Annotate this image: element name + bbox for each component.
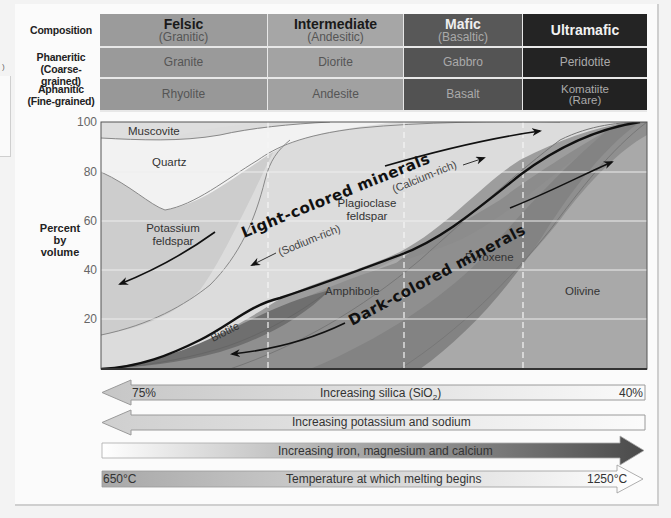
silica-label-text: Increasing silica (SiO (320, 386, 433, 400)
label-quartz: Quartz (152, 156, 187, 168)
silica-right-value: 40% (619, 386, 643, 400)
label-amphibole: Amphibole (325, 285, 379, 297)
iron-magnesium-calcium-label: Increasing iron, magnesium and calcium (278, 444, 493, 458)
label-muscovite: Muscovite (128, 125, 180, 137)
label-potassium-feldspar-2: feldspar (153, 235, 194, 247)
melting-temperature-label: Temperature at which melting begins (286, 472, 481, 486)
label-potassium-feldspar-1: Potassium (146, 222, 200, 234)
label-plagioclase-2: feldspar (347, 210, 388, 222)
potassium-sodium-label: Increasing potassium and sodium (292, 415, 471, 429)
silica-label: Increasing silica (SiO2) (320, 386, 441, 402)
mineral-composition-chart: Muscovite Quartz Potassium feldspar Plag… (0, 0, 671, 518)
label-olivine: Olivine (565, 285, 600, 297)
silica-label-close: ) (437, 386, 441, 400)
temperature-left-value: 650°C (103, 472, 137, 486)
silica-left-value: 75% (132, 386, 156, 400)
temperature-right-value: 1250°C (587, 472, 627, 486)
